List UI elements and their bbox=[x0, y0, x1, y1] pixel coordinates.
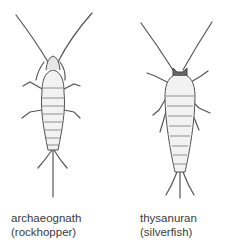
thysanuran-illustration bbox=[115, 0, 235, 200]
archaeognath-caption: archaeognath (rockhopper) bbox=[11, 211, 81, 239]
archaeognath-illustration bbox=[0, 0, 115, 200]
thysanuran-caption: thysanuran (silverfish) bbox=[140, 211, 197, 239]
archaeognath-label: archaeognath bbox=[11, 211, 81, 225]
thysanuran-drawing bbox=[115, 0, 235, 200]
archaeognath-drawing bbox=[0, 0, 115, 200]
thysanuran-label: thysanuran bbox=[140, 211, 197, 225]
thysanuran-common-name: (silverfish) bbox=[140, 225, 197, 239]
archaeognath-common-name: (rockhopper) bbox=[11, 225, 81, 239]
